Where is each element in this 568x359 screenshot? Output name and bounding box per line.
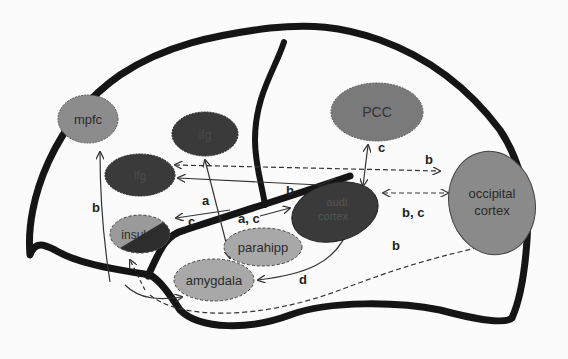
- region-ifg: ifg: [172, 112, 238, 156]
- svg-text:PCC: PCC: [362, 104, 392, 120]
- region-insula: insula: [100, 215, 175, 260]
- edge-label-ac: a, c: [238, 211, 260, 226]
- svg-text:mpfc: mpfc: [74, 112, 103, 127]
- svg-text:occipital: occipital: [469, 186, 516, 201]
- region-pcc: PCC: [331, 83, 423, 141]
- region-lfg: lfg: [105, 154, 175, 196]
- svg-text:parahipp: parahipp: [238, 240, 289, 255]
- edge-label-c-insula: c: [188, 214, 195, 229]
- region-parahipp: parahipp: [224, 228, 302, 266]
- edge-label-bc: b, c: [402, 205, 424, 220]
- edge-label-a: a: [202, 193, 210, 208]
- brain-diagram: mpfc ifg lfg PCC audi cortex occipital c…: [0, 0, 568, 359]
- edge-label-b-mid: b: [286, 183, 294, 198]
- svg-text:cortex: cortex: [474, 203, 510, 218]
- edge-label-b-top-right: b: [425, 152, 433, 167]
- edge-label-c-pcc: c: [378, 140, 385, 155]
- edge-label-b-bottom: b: [392, 238, 400, 253]
- central-sulcus: [255, 42, 284, 205]
- region-amygdala: amygdala: [174, 259, 254, 301]
- edge-label-b-left: b: [92, 200, 100, 215]
- region-mpfc: mpfc: [58, 95, 118, 143]
- svg-text:audi: audi: [327, 196, 348, 208]
- svg-text:insula: insula: [121, 228, 153, 242]
- svg-text:ifg: ifg: [199, 128, 212, 142]
- edge-label-d: d: [299, 272, 307, 287]
- svg-text:lfg: lfg: [134, 169, 147, 183]
- svg-text:amygdala: amygdala: [186, 273, 243, 288]
- svg-text:cortex: cortex: [318, 210, 348, 222]
